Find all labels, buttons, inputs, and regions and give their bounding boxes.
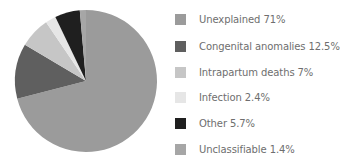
legend-item-other: Other 5.7% [175, 116, 255, 130]
legend-label: Congenital anomalies 12.5% [199, 41, 340, 52]
legend-label: Other 5.7% [199, 118, 255, 129]
legend-swatch [175, 67, 186, 78]
legend-label: Unclassifiable 1.4% [199, 144, 295, 155]
legend-item-unexplained: Unexplained 71% [175, 12, 285, 26]
legend-swatch [175, 14, 186, 25]
legend-item-infection: Infection 2.4% [175, 90, 270, 104]
legend-label: Intrapartum deaths 7% [199, 67, 313, 78]
pie-chart [0, 0, 170, 162]
legend-swatch [175, 92, 186, 103]
legend-label: Infection 2.4% [199, 92, 270, 103]
legend-swatch [175, 144, 186, 155]
legend-label: Unexplained 71% [199, 14, 285, 25]
legend-item-unclassifiable: Unclassifiable 1.4% [175, 142, 295, 156]
legend-item-intrapartum-deaths: Intrapartum deaths 7% [175, 65, 313, 79]
legend-swatch [175, 118, 186, 129]
legend-item-congenital-anomalies: Congenital anomalies 12.5% [175, 39, 340, 53]
legend-swatch [175, 41, 186, 52]
